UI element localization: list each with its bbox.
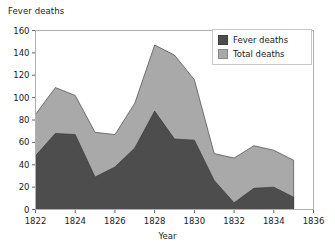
- y-tick-label: 160: [13, 26, 29, 36]
- y-tick-label: 0: [24, 205, 29, 215]
- y-tick-label: 100: [13, 93, 29, 103]
- chart-figure: Fever deaths 020406080100120140160 18221…: [0, 0, 335, 247]
- y-tick-label: 60: [19, 137, 30, 147]
- x-tick-label: 1822: [25, 216, 47, 226]
- x-axis-ticks: 18221824182618281830183218341836: [25, 210, 325, 226]
- x-tick-label: 1824: [64, 216, 86, 226]
- legend-swatch-fever-deaths: [218, 35, 228, 45]
- legend-item-total-deaths[interactable]: Total deaths: [218, 48, 306, 60]
- x-tick-label: 1828: [144, 216, 166, 226]
- legend-swatch-total-deaths: [218, 49, 228, 59]
- legend-label-total-deaths: Total deaths: [233, 49, 285, 59]
- x-axis-title: Year: [0, 231, 335, 241]
- x-tick-label: 1826: [104, 216, 126, 226]
- x-tick-label: 1830: [184, 216, 206, 226]
- chart-area-series: [36, 45, 294, 209]
- y-tick-label: 20: [19, 182, 30, 192]
- y-tick-label: 140: [13, 48, 29, 58]
- x-tick-label: 1832: [223, 216, 245, 226]
- y-tick-label: 40: [19, 160, 30, 170]
- legend-label-fever-deaths: Fever deaths: [233, 35, 288, 45]
- chart-legend: Fever deaths Total deaths: [212, 29, 312, 65]
- y-axis-ticks: 020406080100120140160: [13, 26, 35, 215]
- y-tick-label: 80: [19, 115, 30, 125]
- y-tick-label: 120: [13, 70, 29, 80]
- x-tick-label: 1834: [263, 216, 285, 226]
- legend-item-fever-deaths[interactable]: Fever deaths: [218, 34, 306, 46]
- x-tick-label: 1836: [303, 216, 325, 226]
